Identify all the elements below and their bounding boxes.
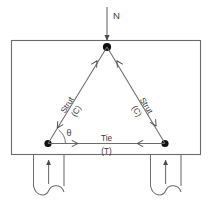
load-label: N: [113, 10, 120, 21]
left-strut-line: [48, 47, 107, 144]
break-symbol-icon: [151, 186, 182, 195]
angle-label: θ: [67, 128, 72, 138]
right-support: [151, 155, 182, 195]
diagram-canvas: N Strut (C) Strut: [0, 0, 212, 204]
break-symbol-icon: [34, 186, 65, 195]
left-strut-member: Strut (C): [48, 47, 107, 144]
angle-indicator: θ: [59, 128, 72, 144]
tie-label: Tie: [101, 134, 113, 143]
left-support: [34, 155, 65, 195]
strut-and-tie-figure: N Strut (C) Strut: [0, 0, 212, 204]
angle-arc: [59, 130, 66, 144]
tie-force-label: (T): [101, 147, 112, 156]
right-strut-line: [107, 47, 165, 144]
right-strut-member: Strut (C): [107, 47, 165, 144]
